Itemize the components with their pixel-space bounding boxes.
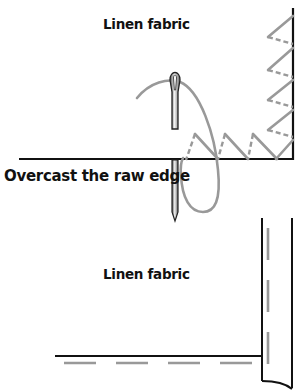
bottom-edge-back-stitches — [186, 134, 253, 160]
top-fabric-label: Linen fabric — [103, 16, 190, 32]
needle-top-icon — [170, 73, 180, 130]
overcast-instruction-label: Overcast the raw edge — [4, 167, 190, 185]
sewing-diagram — [0, 0, 298, 390]
bottom-fabric-label: Linen fabric — [103, 266, 190, 282]
bottom-edge-stitches — [195, 134, 277, 159]
